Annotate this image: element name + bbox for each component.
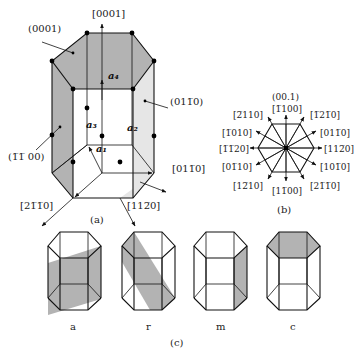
caption-b: (b): [277, 204, 291, 215]
label-dir-11: [2̅110]: [233, 110, 263, 120]
caption-c: (c): [170, 337, 184, 348]
label-0001-plane: (0001): [28, 23, 61, 34]
label-dir-9: [1̅1̅20]: [219, 144, 249, 154]
label-dir-10: [1̅010]: [222, 128, 252, 138]
label-a-plane: a: [70, 321, 76, 332]
prism-c-plane: c: [267, 232, 320, 332]
label-1-100-plane: (1̅1̅ 00): [8, 151, 45, 162]
prism-a-plane: a: [48, 232, 101, 332]
label-a2-vector: a₂: [127, 122, 138, 133]
prism-r-plane: r: [122, 232, 175, 332]
label-dir-0: [1̅100]: [272, 104, 302, 114]
a1-arrow: [75, 173, 102, 197]
label-m-plane: m: [216, 321, 226, 332]
label-a3-vector: a₃: [86, 119, 97, 130]
prism-m-plane: m: [194, 232, 247, 332]
panel-b: (00.1) [1̅100] [1̅21̅0] [011̅0] [112̅0] …: [219, 92, 354, 215]
label-11-20-direction: [112̅0]: [127, 200, 160, 211]
label-c-plane: c: [290, 321, 296, 332]
caption-a: (a): [90, 214, 104, 225]
label-dir-2: [011̅0]: [320, 128, 350, 138]
label-dir-6: [11̅00]: [272, 186, 302, 196]
label-dir-1: [1̅21̅0]: [310, 110, 340, 120]
label-a4-vector: a₄: [108, 70, 119, 81]
label-dir-5: [21̅1̅0]: [310, 181, 340, 191]
label-2-1-1-0-direction: [21̅1̅0]: [20, 200, 53, 211]
label-dir-3: [112̅0]: [324, 144, 354, 154]
label-r-plane: r: [146, 321, 151, 332]
label-a1-vector: a₁: [96, 143, 107, 154]
label-dir-8: [01̅10]: [222, 162, 252, 172]
panel-a: (0001) [0001] a₄ (011̅0) (1̅1̅ 00) a₃ a₂…: [8, 8, 205, 226]
label-0001-direction: [0001]: [92, 8, 125, 19]
label-dir-4: [101̅0]: [320, 162, 350, 172]
label-01-10-direction: [011̅0]: [172, 163, 205, 174]
label-dir-7: [12̅10]: [233, 181, 263, 191]
panel-c: a r: [48, 232, 320, 348]
dir-01-10-arrow: [140, 182, 166, 192]
label-01-10-plane: (011̅0): [170, 96, 203, 107]
hexagonal-crystal-diagram: (0001) [0001] a₄ (011̅0) (1̅1̅ 00) a₃ a₂…: [0, 0, 362, 357]
label-001-plane: (00.1): [272, 92, 299, 102]
